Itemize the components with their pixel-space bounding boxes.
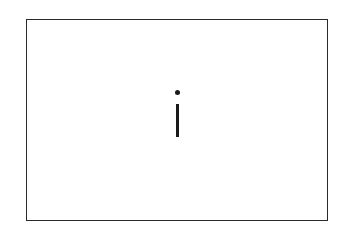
letter-i-stem	[176, 104, 179, 137]
letter-i-dot	[175, 90, 180, 95]
glyph-text: i	[0, 0, 1, 1]
